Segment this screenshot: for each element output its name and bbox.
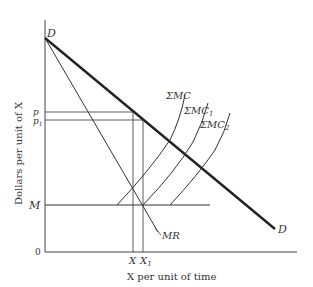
x-axis-title: X per unit of time [127, 271, 216, 282]
demand-curve [45, 38, 275, 229]
monopoly-pricing-diagram: D D MR ΣMC ΣMC1 ΣMC2 p p1 M 0 X X1 X per… [0, 0, 313, 287]
p1-label: p1 [33, 116, 43, 127]
smc1-curve [143, 103, 208, 205]
mr-leader [155, 228, 161, 235]
mr-curve [45, 38, 158, 232]
smc-curve [117, 95, 185, 205]
smc-label: ΣMC [165, 90, 191, 101]
smc2-label: ΣMC2 [199, 119, 230, 132]
x1-tick-label: X1 [139, 255, 152, 268]
y-axis-title: Dollars per unit of X [13, 101, 24, 205]
mr-label: MR [161, 230, 180, 241]
m-label: M [28, 199, 41, 212]
d-bottom-label: D [277, 223, 287, 236]
x-tick-label: X [128, 255, 137, 266]
zero-label: 0 [35, 247, 41, 257]
smc1-label: ΣMC1 [183, 105, 213, 118]
d-top-label: D [46, 27, 56, 40]
